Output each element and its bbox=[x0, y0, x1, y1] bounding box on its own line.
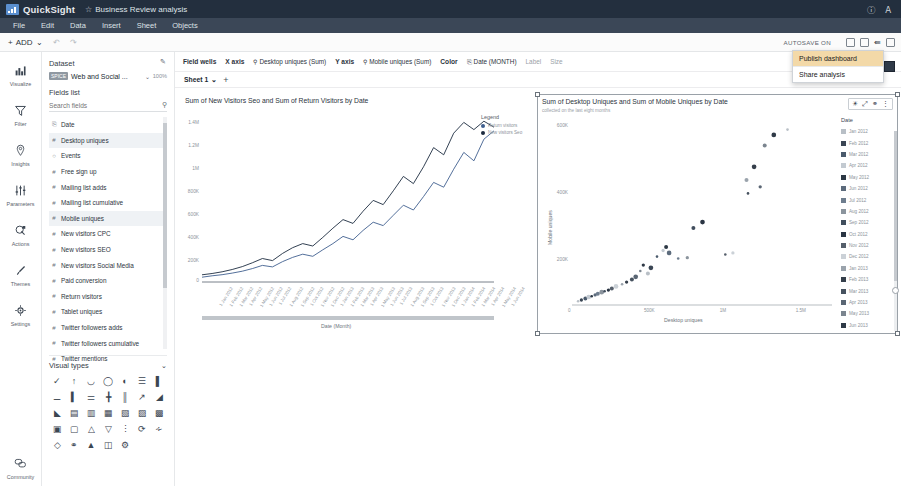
palette-icon[interactable]: ☀ bbox=[852, 100, 858, 108]
funnel-icon[interactable]: ▽ bbox=[100, 422, 116, 435]
scatter-point[interactable] bbox=[580, 298, 583, 301]
scatter-point[interactable] bbox=[621, 283, 624, 286]
pivot-table-icon[interactable]: ▧ bbox=[117, 406, 133, 419]
date-legend-scroll-knob[interactable] bbox=[892, 287, 899, 294]
legend-item[interactable]: May 2013 bbox=[841, 308, 893, 319]
well-pill-color[interactable]: ⎘ Date (MONTH) bbox=[467, 58, 517, 66]
dataset-selector[interactable]: SPICE Web and Social ... ⌄ 100% bbox=[49, 72, 167, 80]
scatter-point[interactable] bbox=[630, 278, 634, 282]
list-item[interactable]: #Return visitors bbox=[49, 289, 167, 305]
undo-icon[interactable]: ↶ bbox=[53, 38, 60, 47]
scatter-point[interactable] bbox=[614, 284, 619, 289]
scatter-point[interactable] bbox=[633, 274, 638, 279]
area-icon[interactable]: ◢ bbox=[151, 390, 167, 403]
scatter-point[interactable] bbox=[625, 280, 628, 283]
legend-item[interactable]: Apr 2013 bbox=[841, 297, 893, 308]
tree-map-icon[interactable]: ▣ bbox=[49, 422, 65, 435]
bar-stacked-v-icon[interactable]: ▍ bbox=[66, 390, 82, 403]
visual-line-chart[interactable]: Sum of New Visitors Seo and Sum of Retur… bbox=[181, 94, 533, 334]
date-legend-scrollbar-thumb[interactable] bbox=[894, 131, 897, 281]
combo-stacked-icon[interactable]: ▥ bbox=[83, 406, 99, 419]
legend-item[interactable]: Dec 2012 bbox=[841, 251, 893, 262]
legend-item[interactable]: Jan 2013 bbox=[841, 263, 893, 274]
search-input[interactable] bbox=[49, 102, 162, 109]
area-stacked-icon[interactable]: ◣ bbox=[49, 406, 65, 419]
bar-stacked-h-icon[interactable]: ⚊ bbox=[49, 390, 65, 403]
share-icon[interactable]: ⇚ bbox=[874, 38, 881, 47]
scatter-point[interactable] bbox=[771, 133, 776, 138]
scatter-point[interactable] bbox=[763, 144, 767, 148]
list-item[interactable]: #Twitter followers adds bbox=[49, 320, 167, 336]
scatter-point[interactable] bbox=[596, 292, 600, 296]
legend-item[interactable]: Jun 2013 bbox=[841, 320, 893, 331]
menu-item-objects[interactable]: Objects bbox=[165, 19, 204, 32]
legend-item[interactable]: Jan 2012 bbox=[841, 126, 893, 137]
menu-item-file[interactable]: File bbox=[6, 19, 32, 32]
scatter-point[interactable] bbox=[586, 295, 591, 300]
list-item[interactable]: ⎘Date bbox=[49, 117, 167, 133]
legend-item[interactable]: Feb 2012 bbox=[841, 137, 893, 148]
scatter-point[interactable] bbox=[700, 220, 705, 225]
list-item[interactable]: #Paid conversion bbox=[49, 273, 167, 289]
bar-clustered-icon[interactable]: ╋ bbox=[100, 390, 116, 403]
scatter-point[interactable] bbox=[667, 251, 672, 256]
list-item[interactable]: #New visitors SEO bbox=[49, 242, 167, 258]
menu-item-edit[interactable]: Edit bbox=[34, 19, 61, 32]
scatter-point[interactable] bbox=[661, 249, 664, 252]
radar-icon[interactable]: ⚙ bbox=[117, 438, 133, 451]
field-list-scrollbar-thumb[interactable] bbox=[163, 123, 167, 288]
sidebar-item-settings[interactable]: Settings bbox=[0, 304, 41, 327]
line-icon[interactable]: ↗ bbox=[134, 390, 150, 403]
tab-sheet-1[interactable]: Sheet 1 ⌄ bbox=[184, 76, 217, 84]
line-chart-plot[interactable] bbox=[202, 114, 494, 286]
legend-item[interactable]: Sep 2012 bbox=[841, 217, 893, 228]
list-item[interactable]: #Twitter followers cumulative bbox=[49, 335, 167, 351]
scatter-point[interactable] bbox=[642, 263, 645, 266]
table-icon[interactable]: ▨ bbox=[134, 406, 150, 419]
well-pill-y-axis[interactable]: ⚲ Mobile uniques (Sum) bbox=[363, 58, 431, 66]
bar-grouped-icon[interactable]: ║ bbox=[117, 390, 133, 403]
filled-map-icon[interactable]: ▲ bbox=[83, 438, 99, 451]
menu-item-publish-dashboard[interactable]: Publish dashboard bbox=[793, 51, 883, 66]
add-sheet-button[interactable]: + bbox=[223, 75, 228, 85]
legend-item[interactable]: Nov 2012 bbox=[841, 240, 893, 251]
analysis-title[interactable]: Business Review analysis bbox=[95, 5, 187, 14]
scatter-icon[interactable]: ⋮ bbox=[117, 422, 133, 435]
scatter-point[interactable] bbox=[603, 290, 606, 293]
list-item[interactable]: #Mailing list adds bbox=[49, 179, 167, 195]
fullscreen-icon[interactable] bbox=[886, 38, 895, 47]
line-series[interactable] bbox=[202, 131, 494, 277]
sidebar-item-actions[interactable]: Actions bbox=[0, 224, 41, 247]
scatter-plot[interactable] bbox=[572, 119, 832, 307]
search-icon[interactable]: ⚲ bbox=[162, 101, 167, 109]
scatter-point[interactable] bbox=[759, 185, 762, 188]
scatter-point[interactable] bbox=[731, 251, 734, 254]
scatter-point[interactable] bbox=[599, 290, 604, 295]
add-button[interactable]: + ADD ⌄ bbox=[8, 38, 43, 47]
pdf-export-icon[interactable] bbox=[860, 38, 869, 47]
favorite-star-icon[interactable]: ☆ bbox=[85, 5, 92, 14]
resize-handle-se[interactable] bbox=[895, 331, 900, 336]
list-item[interactable]: #Tablet uniques bbox=[49, 304, 167, 320]
insight-icon[interactable]: ⚭ bbox=[66, 438, 82, 451]
funnel-chart-icon[interactable]: △ bbox=[83, 422, 99, 435]
legend-item[interactable]: New visitors Seo bbox=[481, 130, 522, 135]
menu-item-insert[interactable]: Insert bbox=[95, 19, 128, 32]
area-line-icon[interactable]: ◡ bbox=[83, 374, 99, 387]
expand-icon[interactable]: ⤢ bbox=[862, 100, 868, 108]
list-item[interactable]: #Twitter mentions bbox=[49, 351, 167, 367]
sidebar-item-visualize[interactable]: Visualize bbox=[0, 64, 41, 87]
line-chart-h-scrollbar-track[interactable] bbox=[202, 316, 494, 320]
bar-vertical-icon[interactable]: ▌ bbox=[151, 374, 167, 387]
bar-100-h-icon[interactable]: ⚌ bbox=[83, 390, 99, 403]
list-item[interactable]: #Mobile uniques bbox=[49, 211, 167, 227]
legend-item[interactable]: Mar 2013 bbox=[841, 285, 893, 296]
sankey-icon[interactable]: ◇ bbox=[49, 438, 65, 451]
sidebar-item-themes[interactable]: Themes bbox=[0, 264, 41, 287]
scatter-point[interactable] bbox=[607, 288, 610, 291]
combo-icon[interactable]: ▤ bbox=[66, 406, 82, 419]
filter-icon[interactable]: ⚭ bbox=[872, 100, 878, 108]
scatter-point[interactable] bbox=[747, 192, 750, 195]
scatter-point[interactable] bbox=[646, 272, 650, 276]
legend-item[interactable]: Jul 2012 bbox=[841, 194, 893, 205]
